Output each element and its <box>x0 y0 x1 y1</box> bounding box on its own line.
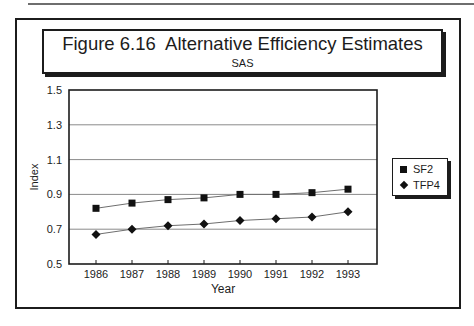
svg-text:1992: 1992 <box>300 268 324 280</box>
figure-page: Figure 6.16 Alternative Efficiency Estim… <box>0 0 474 326</box>
svg-text:1.5: 1.5 <box>47 84 62 96</box>
svg-text:1993: 1993 <box>336 268 360 280</box>
svg-text:1.3: 1.3 <box>47 119 62 131</box>
svg-text:1988: 1988 <box>156 268 180 280</box>
legend-label-tfp4: TFP4 <box>413 179 440 191</box>
svg-text:1989: 1989 <box>192 268 216 280</box>
legend-item-sf2: SF2 <box>400 163 447 175</box>
svg-text:1987: 1987 <box>120 268 144 280</box>
square-marker-icon <box>400 166 407 173</box>
chart-legend: SF2 TFP4 <box>392 158 448 196</box>
svg-text:0.9: 0.9 <box>47 188 62 200</box>
diamond-marker-icon <box>400 181 408 189</box>
svg-text:0.5: 0.5 <box>47 258 62 270</box>
svg-text:1991: 1991 <box>264 268 288 280</box>
svg-text:1990: 1990 <box>228 268 252 280</box>
svg-text:Index: Index <box>28 163 40 190</box>
svg-text:0.7: 0.7 <box>47 223 62 235</box>
svg-text:1.1: 1.1 <box>47 154 62 166</box>
legend-item-tfp4: TFP4 <box>400 179 447 191</box>
legend-label-sf2: SF2 <box>413 163 433 175</box>
svg-text:1986: 1986 <box>84 268 108 280</box>
svg-text:Year: Year <box>211 282 235 296</box>
